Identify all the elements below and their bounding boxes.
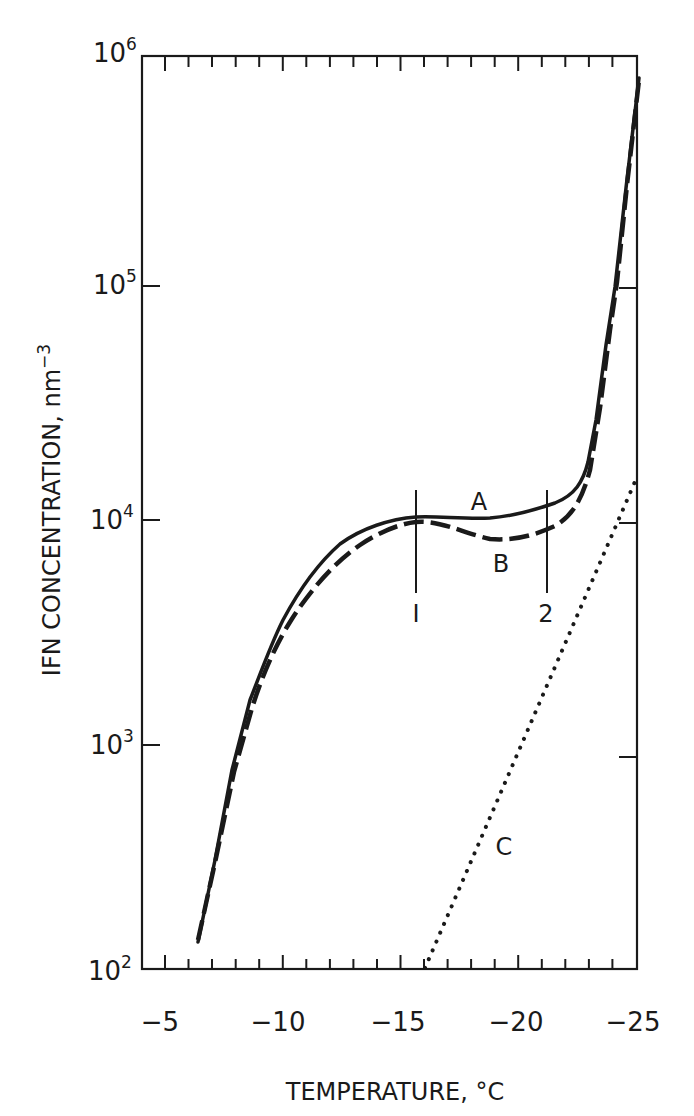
plot-frame <box>142 56 637 969</box>
x-tick-label: −20 <box>489 1007 544 1037</box>
x-axis-title: TEMPERATURE, °C <box>285 1078 505 1106</box>
x-ticks <box>165 56 612 969</box>
marker-2-label: 2 <box>538 600 553 628</box>
x-tick-labels: −5 −10 −15 −20 −25 <box>141 1007 661 1037</box>
y-axis-title: IFN CONCENTRATION, nm−3 <box>34 344 66 676</box>
curve-c-label: C <box>496 833 513 861</box>
x-tick-label: −5 <box>141 1007 179 1037</box>
curve-c <box>425 477 637 968</box>
marker-1-label: I <box>412 600 419 628</box>
x-tick-label: −25 <box>606 1007 661 1037</box>
chart: −5 −10 −15 −20 −25 106 105 104 103 102 T… <box>0 0 694 1116</box>
y-tick-label-1e3: 103 <box>90 726 134 760</box>
curve-b <box>198 80 639 940</box>
y-tick-label-1e4: 104 <box>90 501 134 535</box>
x-tick-label: −15 <box>371 1007 426 1037</box>
curve-b-label: B <box>493 550 509 578</box>
curve-a-label: A <box>471 488 488 516</box>
x-tick-label: −10 <box>251 1007 306 1037</box>
y-tick-label-1e2: 102 <box>88 952 132 986</box>
y-tick-label-1e6: 106 <box>93 34 137 68</box>
y-tick-labels: 106 105 104 103 102 <box>88 34 137 986</box>
y-tick-label-1e5: 105 <box>93 266 137 300</box>
